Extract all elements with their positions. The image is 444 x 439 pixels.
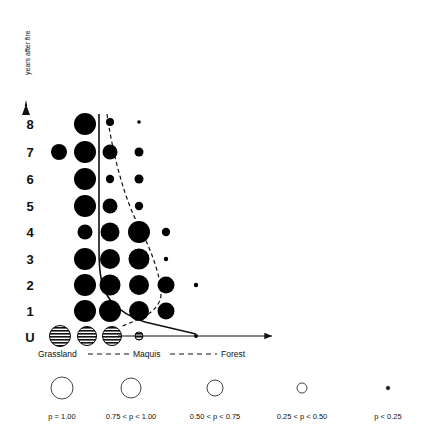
bubble-row-2-col-4 [158, 277, 175, 294]
y-tick-5: 5 [26, 199, 33, 214]
bubble-row-5-col-1 [74, 195, 96, 217]
up-arrow-icon [22, 100, 30, 115]
bubble-row-2-col-5 [194, 283, 198, 287]
figure-root: years after fire 87654321U Grassland Maq… [0, 0, 444, 439]
bubble-row-4-col-4 [162, 228, 170, 236]
bubble-row-6-col-1 [74, 168, 96, 190]
legend-label-4: p < 0.25 [374, 412, 401, 421]
bubble-row-U-col-0 [50, 326, 71, 347]
legend-label-0: p = 1.00 [48, 412, 75, 421]
bubble-row-8-col-3 [137, 120, 141, 124]
bubble-row-1-col-3 [129, 301, 149, 321]
y-axis-title: years after fire [24, 30, 32, 75]
bubble-row-7-col-0 [51, 144, 67, 160]
gradient-label-maquis: Maquis [133, 349, 160, 359]
bubble-row-1-col-4 [158, 303, 175, 320]
y-tick-7: 7 [26, 145, 33, 160]
bubble-row-6-col-2 [106, 175, 114, 183]
bubble-row-6-col-3 [135, 175, 144, 184]
bubble-row-2-col-1 [74, 274, 96, 296]
dashed-boundary-curve [107, 114, 161, 327]
bubble-row-3-col-4 [164, 257, 168, 261]
y-axis-tick-labels: 87654321U [25, 117, 34, 345]
bubble-row-3-col-1 [74, 248, 96, 270]
y-tick-4: 4 [26, 225, 34, 240]
bubble-row-4-col-1 [78, 225, 93, 240]
y-tick-2: 2 [26, 278, 33, 293]
legend-label-1: 0.75 < p < 1.00 [106, 412, 156, 421]
legend-circle-3 [297, 383, 307, 393]
bubble-row-8-col-2 [106, 118, 114, 126]
legend-circle-0 [51, 377, 73, 399]
bubble-row-7-col-3 [135, 148, 144, 157]
bubble-row-4-col-3 [128, 221, 150, 243]
bubble-row-1-col-2 [99, 300, 121, 322]
legend-label-2: 0.50 < p < 0.75 [190, 412, 240, 421]
y-tick-6: 6 [26, 172, 33, 187]
legend-circle-4 [386, 386, 390, 390]
gradient-label-grassland: Grassland [38, 349, 77, 359]
bubble-row-7-col-2 [103, 145, 118, 160]
y-tick-U: U [25, 330, 34, 345]
bubble-row-4-col-2 [101, 223, 120, 242]
legend-circle-1 [121, 378, 141, 398]
bubble-row-U-col-1 [78, 327, 97, 346]
bubble-row-5-col-2 [103, 199, 118, 214]
bubble-row-8-col-1 [74, 113, 96, 135]
legend-circle-2 [207, 380, 223, 396]
bubble-row-1-col-1 [74, 300, 96, 322]
bubble-row-5-col-3 [135, 202, 143, 210]
bubble-plot-canvas: years after fire 87654321U Grassland Maq… [0, 0, 444, 439]
y-tick-3: 3 [26, 252, 33, 267]
size-legend: p = 1.000.75 < p < 1.000.50 < p < 0.750.… [48, 377, 401, 421]
bubble-row-3-col-3 [129, 249, 150, 270]
bubble-row-2-col-2 [100, 275, 121, 296]
y-tick-1: 1 [26, 304, 33, 319]
y-tick-8: 8 [26, 117, 33, 132]
bubble-row-2-col-3 [129, 275, 149, 295]
bubble-row-7-col-1 [74, 141, 96, 163]
legend-label-3: 0.25 < p < 0.50 [277, 412, 327, 421]
gradient-label-forest: Forest [221, 349, 246, 359]
bubble-row-3-col-2 [100, 249, 120, 269]
